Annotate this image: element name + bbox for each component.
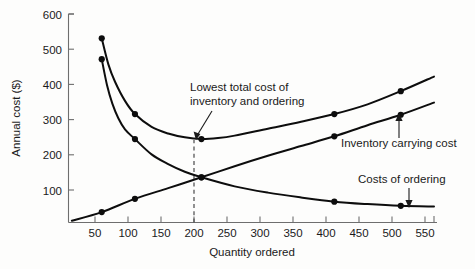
data-point-marker — [198, 174, 204, 180]
series-markers-group — [99, 35, 404, 215]
x-ticks-group: 50 100 150 200 250 300 350 400 450 500 5… — [89, 217, 435, 240]
x-tick-label-100: 100 — [118, 227, 137, 239]
data-point-marker — [198, 136, 204, 142]
x-tick-label-200: 200 — [184, 227, 203, 239]
data-point-marker — [331, 133, 337, 139]
y-tick-label-200: 200 — [43, 149, 62, 161]
y-tick-label-300: 300 — [43, 114, 62, 126]
annotation-inventory-carrying-cost: Inventory carrying cost — [341, 113, 457, 149]
data-point-marker — [99, 209, 105, 215]
x-tick-label-500: 500 — [382, 227, 401, 239]
inventory-carrying-cost-line — [72, 103, 434, 221]
y-tick-label-400: 400 — [43, 79, 62, 91]
y-tick-label-500: 500 — [43, 44, 62, 56]
data-point-marker — [398, 203, 404, 209]
annotation-lowest-total-cost-line2: inventory and ordering — [190, 95, 304, 107]
y-axis-title: Annual cost ($) — [10, 79, 22, 157]
data-point-marker — [99, 56, 105, 62]
annotation-costs-of-ordering: Costs of ordering — [358, 173, 446, 208]
x-tick-label-150: 150 — [151, 227, 170, 239]
y-tick-label-600: 600 — [43, 9, 62, 21]
x-tick-label-250: 250 — [217, 227, 236, 239]
annotation-inventory-carrying-cost-label: Inventory carrying cost — [341, 137, 457, 149]
x-tick-label-50: 50 — [89, 227, 102, 239]
data-point-marker — [331, 199, 337, 205]
annotation-lowest-total-cost: Lowest total cost of inventory and order… — [190, 81, 304, 140]
axes-group — [69, 14, 438, 223]
data-point-marker — [398, 88, 404, 94]
data-point-marker — [331, 111, 337, 117]
annotation-lowest-total-cost-arrow — [198, 111, 212, 134]
data-point-marker — [99, 35, 105, 41]
x-tick-label-300: 300 — [250, 227, 269, 239]
x-tick-label-400: 400 — [316, 227, 335, 239]
data-point-marker — [132, 111, 138, 117]
annotation-costs-of-ordering-label: Costs of ordering — [358, 173, 446, 185]
x-tick-label-450: 450 — [349, 227, 368, 239]
x-tick-label-350: 350 — [283, 227, 302, 239]
chart-page: 600 500 400 300 200 100 50 100 150 200 2… — [0, 0, 475, 269]
y-ticks-group: 600 500 400 300 200 100 — [43, 9, 74, 197]
series-paths-group — [72, 38, 434, 220]
annotation-lowest-total-cost-line1: Lowest total cost of — [190, 81, 289, 93]
x-tick-label-550: 550 — [415, 227, 434, 239]
data-point-marker — [132, 196, 138, 202]
eoq-cost-chart: 600 500 400 300 200 100 50 100 150 200 2… — [0, 0, 475, 269]
data-point-marker — [132, 136, 138, 142]
x-axis-title: Quantity ordered — [209, 246, 295, 258]
y-tick-label-100: 100 — [43, 185, 62, 197]
